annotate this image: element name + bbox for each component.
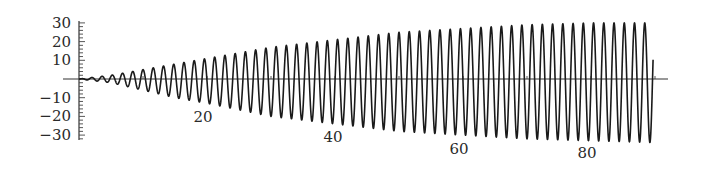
x-tick-label: 40 [323, 128, 342, 146]
y-tick-label: −10 [39, 89, 71, 107]
y-tick-label: −30 [39, 126, 71, 144]
y-tick-label: 30 [52, 14, 71, 32]
chart: 302010−10−20−30 20406080 [0, 0, 705, 173]
x-tick-label: 80 [577, 144, 596, 162]
x-tick-label: 60 [449, 140, 468, 158]
y-tick-label: 10 [52, 51, 71, 69]
y-tick-label: −20 [39, 107, 71, 125]
y-tick-label: 20 [52, 33, 71, 51]
x-tick-label: 20 [193, 108, 212, 126]
y-axis [79, 21, 85, 140]
signal-curve [79, 23, 653, 143]
